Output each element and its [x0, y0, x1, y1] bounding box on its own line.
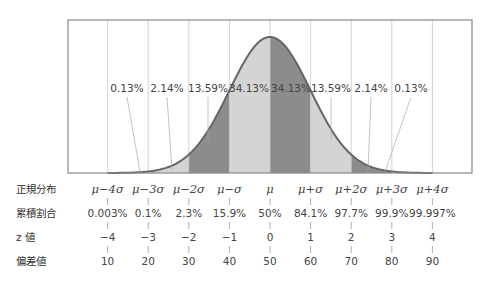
row-value: 80: [385, 255, 398, 267]
region-percentage-label: 34.13%: [271, 82, 311, 94]
row-label-normal-distribution: 正規分布: [16, 183, 56, 195]
row-value: 70: [345, 255, 358, 267]
row-value: 99.9%: [375, 207, 408, 219]
row-value: 10: [101, 255, 114, 267]
row-value: 4: [429, 231, 436, 243]
row-value: 99.997%: [409, 207, 456, 219]
row-label-deviation-value: 偏差値: [16, 255, 47, 267]
row-value: μ−4σ: [91, 182, 124, 196]
row-value: μ−σ: [217, 182, 243, 196]
row-value: −4: [100, 231, 116, 243]
row-value: 50%: [258, 207, 281, 219]
row-label-cumulative-ratio: 累積割合: [16, 207, 57, 219]
row-value: −1: [222, 231, 237, 243]
region-percentage-label: 2.14%: [150, 82, 183, 94]
row-value: 2.3%: [175, 207, 202, 219]
leader-line: [385, 97, 411, 172]
row-value: μ+3σ: [376, 182, 409, 196]
row-value: μ+σ: [298, 182, 324, 196]
row-value: 15.9%: [213, 207, 246, 219]
normal-distribution-chart: 0.13%2.14%13.59%34.13%34.13%13.59%2.14%0…: [0, 0, 485, 286]
row-value: 90: [426, 255, 439, 267]
row-value: −3: [140, 231, 155, 243]
row-value: 60: [304, 255, 317, 267]
sigma-gridlines: [108, 20, 433, 173]
region-percentage-label: 13.59%: [311, 82, 351, 94]
row-value: 0.1%: [135, 207, 162, 219]
leader-line: [368, 97, 371, 172]
region-percentage-label: 13.59%: [188, 82, 228, 94]
row-value: 1: [307, 231, 314, 243]
row-value: 2: [348, 231, 355, 243]
row-value: μ−2σ: [173, 182, 206, 196]
region-3: [229, 37, 270, 173]
row-value: −2: [181, 231, 196, 243]
row-value: 0: [267, 231, 274, 243]
row-value: μ−3σ: [132, 182, 165, 196]
region-percentage-label: 0.13%: [110, 82, 143, 94]
region-4: [270, 37, 311, 173]
row-value: 0.003%: [88, 207, 128, 219]
region-percentage-label: 2.14%: [354, 82, 387, 94]
row-value: 30: [182, 255, 195, 267]
row-value: 3: [388, 231, 395, 243]
region-percentage-label: 34.13%: [229, 82, 269, 94]
row-value: 84.1%: [294, 207, 327, 219]
leader-line: [127, 97, 140, 172]
row-value: μ: [266, 182, 273, 196]
row-value: 50: [263, 255, 276, 267]
row-value: 40: [223, 255, 236, 267]
row-value: 20: [142, 255, 155, 267]
row-value: μ+2σ: [335, 182, 368, 196]
region-percentage-label: 0.13%: [394, 82, 427, 94]
row-value: μ+4σ: [416, 182, 449, 196]
row-value: 97.7%: [335, 207, 368, 219]
leader-line: [167, 97, 172, 170]
value-table: 正規分布μ−4σμ−3σμ−2σμ−σμμ+σμ+2σμ+3σμ+4σ累積割合0…: [16, 182, 456, 267]
row-label-z-value: z 値: [16, 231, 36, 243]
